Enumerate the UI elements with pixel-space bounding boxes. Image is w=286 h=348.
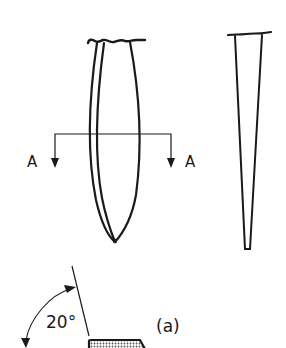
blade-side-body [235,35,262,249]
angle-detail [21,266,145,348]
section-line-a-a [51,134,175,168]
section-arrow-right-icon [167,158,175,168]
blade-side-view [228,32,271,249]
subfigure-label: (a) [156,316,180,336]
section-label-right: A [185,153,196,171]
technical-drawing: A A 20° (a) [0,0,286,348]
blade-side-top-edge [228,32,271,35]
blade-front-left-outer-edge [90,43,115,242]
blade-front-view [88,40,145,244]
angle-label: 20° [46,312,76,332]
section-arrow-left-icon [51,158,59,168]
section-line [55,134,171,165]
arc-arrow-top-icon [64,285,76,293]
section-label-left: A [27,153,38,171]
blade-front-right-edge [115,42,139,242]
stippled-block [89,340,145,348]
arc-arrow-bottom-icon [21,338,30,348]
drawing-svg: A A 20° (a) [0,0,286,348]
blade-front-tip [113,239,117,243]
